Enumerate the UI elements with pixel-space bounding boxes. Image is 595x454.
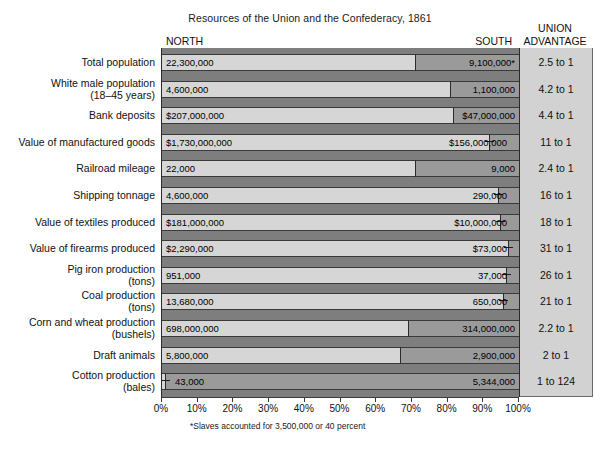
advantage-value: 4.4 to 1: [519, 109, 593, 122]
row-label: White male population(18–45 years): [0, 77, 155, 101]
south-value: 9,000: [491, 162, 515, 175]
x-axis-tick: [375, 397, 376, 402]
row-label: Coal production(tons): [0, 289, 155, 313]
bar-divider: [415, 54, 416, 71]
row-label: Shipping tonnage: [0, 189, 155, 201]
north-value: 22,300,000: [166, 56, 214, 69]
x-axis-tick: [197, 397, 198, 402]
bar-row: 4,600,000290,000: [162, 187, 519, 204]
x-axis-tick: [268, 397, 269, 402]
row-label-line1: Coal production: [0, 289, 155, 301]
north-value: 4,600,000: [166, 83, 208, 96]
advantage-value: 2 to 1: [519, 349, 593, 362]
row-label: Value of manufactured goods: [0, 136, 155, 148]
row-label-line1: Railroad mileage: [0, 162, 155, 174]
footnote: *Slaves accounted for 3,500,000 or 40 pe…: [190, 421, 365, 431]
bar-segment-north: [162, 240, 508, 257]
north-value: 13,680,000: [166, 295, 214, 308]
column-header-south: SOUTH: [408, 35, 512, 47]
x-axis-tick: [518, 397, 519, 402]
bar-divider: [453, 107, 454, 124]
row-label-line1: Value of textiles produced: [0, 216, 155, 228]
advantage-value: 11 to 1: [519, 136, 593, 149]
bar-row: 22,0009,000: [162, 160, 519, 177]
row-label-line2: (bales): [0, 381, 155, 393]
north-value: 5,800,000: [166, 349, 208, 362]
south-value: 5,344,000: [473, 375, 515, 388]
bar-divider: [408, 320, 409, 337]
x-axis-tick: [482, 397, 483, 402]
bar-divider: [415, 160, 416, 177]
south-value: 290,000: [473, 189, 507, 202]
bar-row: $207,000,000$47,000,000: [162, 107, 519, 124]
advantage-value: 4.2 to 1: [519, 83, 593, 96]
x-axis-tick: [447, 397, 448, 402]
south-value: 9,100,000*: [469, 56, 515, 69]
bar-row: 4,600,0001,100,000: [162, 81, 519, 98]
row-label-line1: Cotton production: [0, 369, 155, 381]
x-axis-tick: [304, 397, 305, 402]
row-label-line1: Value of manufactured goods: [0, 136, 155, 148]
x-axis-tick: [232, 397, 233, 402]
x-axis-tick: [161, 397, 162, 402]
south-value: 314,000,000: [462, 322, 515, 335]
advantage-value: 2.4 to 1: [519, 162, 593, 175]
plot-area: 22,300,0009,100,000*4,600,0001,100,000$2…: [161, 48, 520, 397]
x-axis-tick-label: 100%: [496, 403, 540, 414]
bar-segment-south: [165, 373, 519, 390]
row-label-line1: Bank deposits: [0, 109, 155, 121]
row-label: Corn and wheat production(bushels): [0, 316, 155, 340]
advantage-value: 2.2 to 1: [519, 322, 593, 335]
south-value: $156,000,000: [449, 136, 507, 149]
row-label: Pig iron production(tons): [0, 263, 155, 287]
advantage-value: 2.5 to 1: [519, 56, 593, 69]
row-label-line1: Draft animals: [0, 349, 155, 361]
bar-segment-north: [162, 187, 498, 204]
south-value: 2,900,000: [473, 349, 515, 362]
bar-row: $2,290,000$73,000: [162, 240, 519, 257]
row-label-line2: (bushels): [0, 328, 155, 340]
north-value: $2,290,000: [166, 242, 214, 255]
row-label: Total population: [0, 56, 155, 68]
bar-segment-south: [506, 267, 519, 284]
south-value: 650,000: [473, 295, 507, 308]
row-label-line1: Shipping tonnage: [0, 189, 155, 201]
bar-segment-north: [162, 267, 506, 284]
bar-row: 951,00037,000: [162, 267, 519, 284]
bar-segment-south: [508, 240, 519, 257]
north-value: $181,000,000: [166, 216, 224, 229]
south-value: $10,000,000: [454, 216, 507, 229]
north-value: 43,000: [175, 375, 204, 388]
row-label-line1: Corn and wheat production: [0, 316, 155, 328]
north-value: 698,000,000: [166, 322, 219, 335]
row-label-line1: Pig iron production: [0, 263, 155, 275]
column-header-advantage: ADVANTAGE: [518, 35, 592, 47]
advantage-value: 16 to 1: [519, 189, 593, 202]
bar-divider: [165, 373, 166, 390]
row-label: Cotton production(bales): [0, 369, 155, 393]
north-value: $1,730,000,000: [166, 136, 232, 149]
row-label-line2: (tons): [0, 275, 155, 287]
north-value: 22,000: [166, 162, 195, 175]
x-axis-tick: [340, 397, 341, 402]
south-value: 1,100,000: [473, 83, 515, 96]
south-value: $47,000,000: [462, 109, 515, 122]
x-axis-tick: [411, 397, 412, 402]
row-label: Railroad mileage: [0, 162, 155, 174]
advantage-value: 1 to 124: [519, 375, 593, 388]
row-label-line1: Value of firearms produced: [0, 242, 155, 254]
row-label-line1: White male population: [0, 77, 155, 89]
south-value: 37,000: [478, 269, 507, 282]
north-value: $207,000,000: [166, 109, 224, 122]
bar-row: 13,680,000650,000: [162, 293, 519, 310]
division-tick-icon: [161, 380, 170, 381]
advantage-value: 18 to 1: [519, 216, 593, 229]
row-label: Value of textiles produced: [0, 216, 155, 228]
bar-divider: [450, 81, 451, 98]
advantage-value: 31 to 1: [519, 242, 593, 255]
column-header-union: UNION: [520, 22, 590, 34]
advantage-value: 21 to 1: [519, 295, 593, 308]
advantage-value: 26 to 1: [519, 269, 593, 282]
row-label-line2: (tons): [0, 301, 155, 313]
south-value: $73,000: [473, 242, 507, 255]
